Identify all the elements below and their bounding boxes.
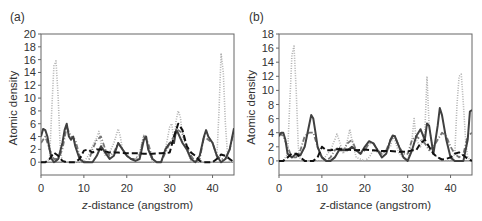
- x-tick-label: 10: [78, 182, 90, 194]
- y-tick-label: 6: [268, 113, 274, 125]
- chart-a-plot: 02468101214161820010203040z-distance (an…: [0, 0, 241, 221]
- chart-panel-a: (a) 02468101214161820010203040z-distance…: [0, 0, 241, 221]
- x-axis-title: z-distance (angstrom): [319, 199, 431, 211]
- y-tick-label: 2: [268, 141, 274, 153]
- y-tick-label: 10: [24, 92, 36, 104]
- series-dotted-light: [41, 53, 234, 162]
- x-tick-label: 40: [444, 182, 456, 194]
- x-tick-label: 30: [164, 182, 176, 194]
- y-tick-label: 8: [268, 99, 274, 111]
- y-tick-label: 8: [30, 105, 36, 117]
- x-axis-title: z-distance (angstrom): [81, 199, 193, 211]
- y-tick-label: 2: [30, 143, 36, 155]
- x-tick-label: 40: [206, 182, 218, 194]
- y-tick-label: 0: [30, 156, 36, 168]
- x-tick-label: 20: [121, 182, 133, 194]
- x-tick-label: 0: [38, 182, 44, 194]
- y-tick-label: 0: [268, 155, 274, 167]
- series-dotted-light: [279, 46, 472, 161]
- y-tick-label: 12: [24, 79, 36, 91]
- y-tick-label: 4: [268, 127, 274, 139]
- y-tick-label: 10: [262, 84, 274, 96]
- x-tick-label: 0: [276, 182, 282, 194]
- chart-panel-b: (b) 024681012141618010203040z-distance (…: [241, 0, 482, 221]
- y-tick-label: 12: [262, 70, 274, 82]
- chart-b-plot: 024681012141618010203040z-distance (angs…: [241, 0, 482, 221]
- y-tick-label: 6: [30, 118, 36, 130]
- x-tick-label: 30: [402, 182, 414, 194]
- plot-frame: [279, 34, 472, 175]
- y-tick-label: 14: [24, 66, 36, 78]
- y-axis-title: Atomic density: [7, 70, 19, 145]
- y-tick-label: 4: [30, 131, 36, 143]
- x-tick-label: 20: [359, 182, 371, 194]
- y-tick-label: 16: [24, 54, 36, 66]
- series-dashed-black: [279, 140, 472, 161]
- y-tick-label: 20: [24, 28, 36, 40]
- y-tick-label: 18: [262, 28, 274, 40]
- x-tick-label: 10: [316, 182, 328, 194]
- y-tick-label: 14: [262, 56, 274, 68]
- y-tick-label: 18: [24, 41, 36, 53]
- y-axis-title: Atomic density: [245, 70, 257, 145]
- y-tick-label: 16: [262, 42, 274, 54]
